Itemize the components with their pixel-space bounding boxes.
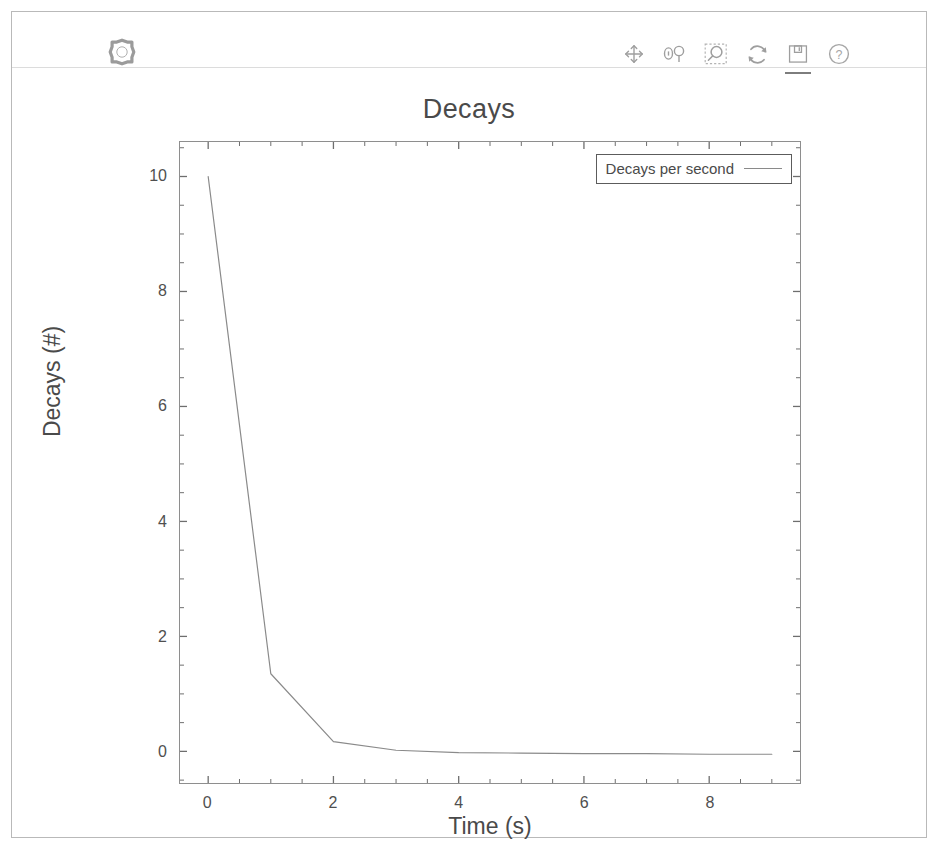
refresh-icon[interactable] [743, 39, 771, 69]
zoom-pair-icon[interactable] [661, 39, 689, 69]
x-axis-label: Time (s) [179, 813, 801, 840]
chart-legend: Decays per second [596, 154, 792, 184]
y-tick-label: 2 [158, 628, 167, 646]
y-tick-label: 0 [158, 743, 167, 761]
x-tick-label: 8 [705, 794, 714, 812]
legend-line-swatch [744, 168, 782, 169]
pan-icon[interactable] [620, 39, 648, 69]
plot-area[interactable]: Decays per second [179, 141, 801, 784]
y-tick-label: 8 [158, 282, 167, 300]
figure-canvas: Decays Decays (#) Time (s) Decays per se… [12, 68, 926, 838]
x-tick-label: 4 [454, 794, 463, 812]
y-axis-label: Decays (#) [39, 272, 66, 492]
plot-svg [180, 142, 800, 783]
y-tick-label: 6 [158, 397, 167, 415]
y-tick-label: 4 [158, 513, 167, 531]
help-icon[interactable]: ? [825, 39, 853, 69]
y-tick-label: 10 [149, 167, 167, 185]
toolbar-button-group: ? [620, 38, 853, 70]
x-tick-label: 6 [580, 794, 589, 812]
figure-toolbar: ? [12, 12, 926, 68]
x-tick-label: 0 [203, 794, 212, 812]
chart-title: Decays [12, 94, 926, 125]
zoom-rect-icon[interactable] [702, 39, 730, 69]
app-logo [107, 37, 137, 67]
x-tick-label: 2 [328, 794, 337, 812]
legend-entry-label: Decays per second [606, 160, 734, 177]
app-window: ? Decays Decays (#) Time (s) Decays per … [11, 11, 927, 838]
save-icon[interactable] [784, 39, 812, 69]
svg-text:?: ? [836, 48, 843, 62]
